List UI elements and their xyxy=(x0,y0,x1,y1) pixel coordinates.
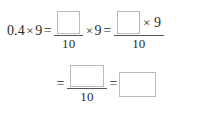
numerator-factor-value: 9 xyxy=(154,16,161,30)
fraction-second-numerator: × 9 xyxy=(114,10,164,35)
answer-blank-2[interactable] xyxy=(117,11,140,34)
fraction-first: 10 xyxy=(53,10,84,51)
equation-line-1: 0.4 × 9 = 10 × 9 = × 9 xyxy=(7,10,165,51)
equals-sign-1: = xyxy=(42,23,53,39)
fraction-first-numerator xyxy=(54,10,83,35)
fraction-second-denominator: 10 xyxy=(129,36,148,51)
fraction-third-numerator xyxy=(67,64,107,88)
answer-blank-1[interactable] xyxy=(57,11,80,34)
equation-line-2: = 10 = xyxy=(55,64,156,104)
math-worksheet-problem: 0.4 × 9 = 10 × 9 = × 9 xyxy=(0,0,202,113)
equals-sign-4: = xyxy=(108,76,119,92)
answer-blank-final[interactable] xyxy=(119,72,156,97)
multiplicand-value: 0.4 xyxy=(7,24,25,38)
denominator-value-2: 10 xyxy=(132,37,145,50)
fraction-first-denominator: 10 xyxy=(59,36,78,51)
equals-sign-2: = xyxy=(102,23,113,39)
multiplier-value: 9 xyxy=(35,24,42,38)
fraction-second: × 9 10 xyxy=(113,10,165,51)
fraction-third-denominator: 10 xyxy=(77,89,96,104)
answer-blank-3[interactable] xyxy=(70,65,104,87)
denominator-value-3: 10 xyxy=(80,90,93,103)
equals-sign-3: = xyxy=(55,76,66,92)
fraction-third: 10 xyxy=(66,64,108,104)
multiply-operator-2: × xyxy=(84,23,94,39)
multiply-operator-1: × xyxy=(25,23,35,39)
denominator-value-1: 10 xyxy=(62,37,75,50)
multiplier-value-2: 9 xyxy=(95,24,102,38)
multiply-operator-3: × xyxy=(142,15,152,31)
numerator-expression: × 9 xyxy=(117,11,161,34)
